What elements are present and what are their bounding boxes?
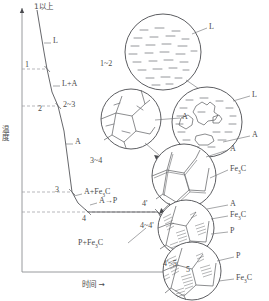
callout-P-inset6: P	[236, 252, 240, 260]
callout-A-inset4: A	[230, 145, 236, 153]
callout-A-inset3: A	[182, 113, 188, 121]
callout-P-inset5: P	[230, 227, 234, 235]
inset-stage-4-4prime: 4~4'	[140, 222, 154, 230]
inset-4-austenite-plus-cementite	[152, 144, 228, 208]
callout-line-Fe3C6	[219, 279, 234, 281]
y-axis-label: 温度	[1, 125, 9, 141]
label-L: L	[53, 37, 58, 45]
callout-line-Fe3C5	[211, 216, 228, 219]
figure-canvas: 温度 时间 → 1以上 L 1 L+A 2 A 3 A+Fe3C A→P 4 4…	[0, 0, 269, 301]
callout-L-inset1: L	[209, 23, 214, 31]
callout-Fe3C-inset4: Fe3C	[230, 165, 246, 175]
point-4-prime: 4'	[142, 200, 147, 208]
callout-A-inset2: A	[252, 131, 258, 139]
label-L-plus-A: L+A	[62, 80, 77, 88]
point-1: 1	[25, 61, 29, 69]
label-P-plus-Fe3C: P+Fe3C	[78, 239, 103, 249]
inset-stage-2-3: 2~3	[63, 101, 75, 109]
point-2: 2	[38, 105, 42, 113]
callout-Fe3C-inset5: Fe3C	[230, 211, 246, 221]
inset-3-austenite	[101, 89, 180, 149]
callout-line-L2	[233, 96, 250, 101]
label-A: A	[75, 138, 81, 146]
diagram-svg	[0, 0, 269, 301]
callout-Fe3C-inset6: Fe3C	[236, 274, 252, 284]
point-4: 4	[82, 215, 86, 223]
callout-line-P6	[217, 257, 234, 261]
label-A-to-P: A→P	[99, 197, 117, 205]
callout-line-A5	[207, 205, 228, 209]
label-above-1: 1以上	[34, 3, 53, 11]
y-axis-arrow	[20, 8, 24, 13]
inset-1-liquid	[125, 14, 207, 90]
callout-A-inset5: A	[230, 200, 236, 208]
inset-stage-3-4: 3~4	[90, 157, 102, 165]
point-3: 3	[55, 186, 59, 194]
callout-L-inset2: L	[252, 91, 257, 99]
point-5: 5	[186, 266, 190, 274]
inset-6-pearlite-cementite	[163, 242, 234, 300]
inset-stage-4prime-5: 4'~5	[163, 260, 177, 268]
x-axis-label: 时间 →	[82, 281, 105, 289]
inset-stage-1-2: 1~2	[100, 60, 112, 68]
